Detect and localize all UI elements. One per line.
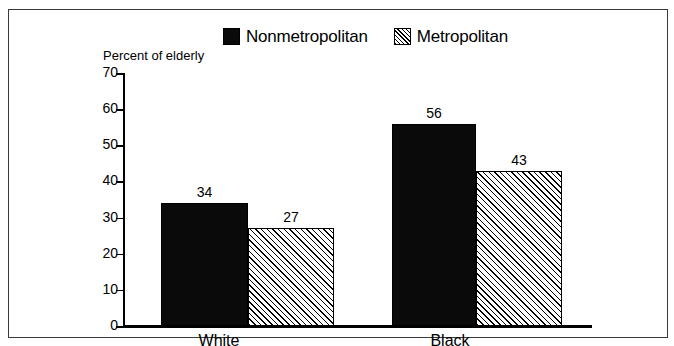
chart-legend: Nonmetropolitan Metropolitan <box>223 23 508 49</box>
y-tick-label-70: 70 <box>92 64 118 80</box>
bar-value-white-metropolitan: 27 <box>249 209 333 225</box>
bar-value-black-metropolitan: 43 <box>477 152 561 168</box>
y-tick-label-50: 50 <box>92 136 118 152</box>
legend-item-nonmetropolitan: Nonmetropolitan <box>223 28 368 45</box>
bar-white-metropolitan[interactable]: 27 <box>248 228 334 326</box>
bar-white-nonmetropolitan[interactable]: 34 <box>161 203 248 326</box>
bar-black-nonmetropolitan[interactable]: 56 <box>392 124 476 326</box>
category-label-white: White <box>151 332 287 346</box>
y-tick-label-10: 10 <box>92 281 118 297</box>
legend-label-nonmetropolitan: Nonmetropolitan <box>246 28 368 45</box>
bar-black-metropolitan[interactable]: 43 <box>476 171 562 326</box>
y-axis-title: Percent of elderly <box>103 49 204 63</box>
legend-label-metropolitan: Metropolitan <box>417 28 508 45</box>
category-label-black: Black <box>382 332 518 346</box>
bar-value-black-nonmetropolitan: 56 <box>393 105 475 121</box>
bar-value-white-nonmetropolitan: 34 <box>162 184 247 200</box>
figure-frame: Nonmetropolitan Metropolitan Percent of … <box>8 9 668 338</box>
y-tick-label-30: 30 <box>92 209 118 225</box>
y-tick-label-0: 0 <box>92 317 118 333</box>
hatched-swatch-icon <box>394 28 411 45</box>
legend-item-metropolitan: Metropolitan <box>394 28 508 45</box>
y-tick-label-20: 20 <box>92 245 118 261</box>
y-tick-label-60: 60 <box>92 100 118 116</box>
y-tick-label-40: 40 <box>92 172 118 188</box>
plot-area: 70 60 50 40 30 20 10 0 <box>123 73 592 326</box>
solid-swatch-icon <box>223 28 240 45</box>
y-axis-line <box>123 73 125 326</box>
